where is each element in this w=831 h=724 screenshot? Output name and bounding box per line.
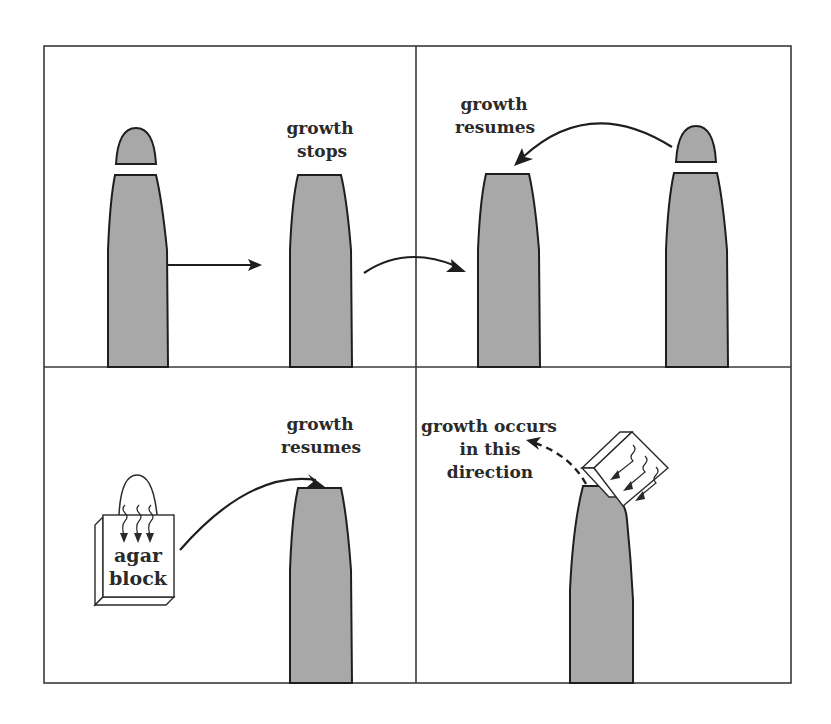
label-in-this: in this <box>460 439 521 459</box>
auxin-experiment-diagram: growth stops growth resumes <box>0 0 831 724</box>
label-stops: stops <box>297 141 347 161</box>
connector-arrow <box>364 257 466 273</box>
label-growth: growth <box>286 118 353 138</box>
shoot-with-block-applied <box>290 488 352 683</box>
dashed-growth-arrow <box>535 443 586 484</box>
label-direction: direction <box>447 462 533 482</box>
curved-connector-arrow <box>364 257 456 273</box>
panel-top-left: growth stops <box>108 118 354 367</box>
shoot-bending <box>570 486 633 683</box>
detached-tip-cap <box>116 128 156 164</box>
label-growth: growth <box>460 94 527 114</box>
detached-tip-cap-right <box>676 126 716 162</box>
label-resumes: resumes <box>281 437 361 457</box>
panel-bottom-left: agar block growth resumes <box>95 414 361 683</box>
shoot-intact-tip-removed <box>108 175 168 367</box>
label-growth-occurs: growth occurs <box>421 416 557 436</box>
shoot-decapitated <box>290 175 352 367</box>
label-growth: growth <box>286 414 353 434</box>
label-resumes: resumes <box>455 117 535 137</box>
panel-bottom-right: growth occurs in this direction <box>421 416 668 683</box>
tip-on-block-outline <box>119 475 157 515</box>
shoot-decapitated-receiving-tip <box>478 174 540 367</box>
agar-block-side <box>95 517 103 605</box>
connector-arrowhead-icon <box>446 259 466 272</box>
panel-top-right: growth resumes <box>455 94 728 367</box>
curved-arrowhead-icon <box>307 474 325 487</box>
label-agar: agar <box>114 544 163 566</box>
curved-arrow-to-shoot <box>523 123 672 157</box>
shoot-donor <box>666 173 728 367</box>
label-block: block <box>109 567 168 589</box>
agar-block-bottom <box>95 597 174 605</box>
